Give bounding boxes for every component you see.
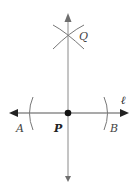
label-P: P bbox=[53, 122, 63, 135]
label-B: B bbox=[109, 122, 118, 135]
bottom-arrowhead bbox=[65, 176, 71, 182]
perpendicular-construction-diagram: Q A P B ℓ bbox=[0, 0, 135, 183]
label-A: A bbox=[15, 122, 24, 135]
label-line-l: ℓ bbox=[121, 94, 126, 107]
top-arrowhead bbox=[65, 13, 72, 22]
label-Q: Q bbox=[79, 30, 88, 43]
point-P bbox=[65, 110, 72, 117]
right-arrowhead bbox=[120, 109, 129, 117]
left-arrowhead bbox=[9, 109, 18, 117]
